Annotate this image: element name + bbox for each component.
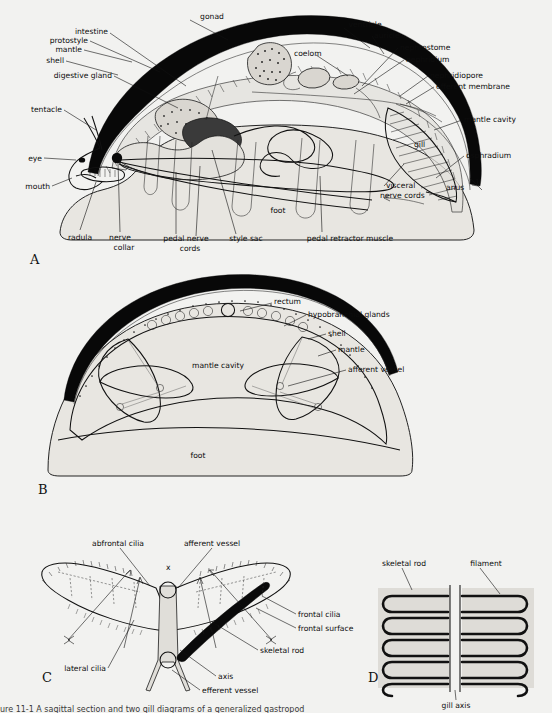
label-panel-b-mantle-cavity: mantle cavity (192, 361, 244, 370)
label-panel-a-pedal-nerve: pedal nerve (163, 234, 209, 243)
panel-d-right-block (462, 588, 534, 688)
label-panel-a-pedal-retractor: pedal retractor muscle (307, 234, 394, 243)
label-panel-a-eye: eye (28, 154, 42, 163)
label-panel-c-frontal-cilia: frontal cilia (298, 610, 340, 619)
label-panel-a-intestine: intestine (75, 27, 108, 36)
label-panel-b-foot: foot (191, 451, 206, 460)
label-panel-a-coelom: coelom (294, 49, 322, 58)
label-panel-a-nephridium: nephridium (406, 55, 450, 64)
label-panel-a-nephrostome: nephrostome (400, 43, 451, 52)
label-panel-a-gill: gill (414, 140, 425, 149)
label-panel-d-filament: filament (470, 559, 501, 568)
label-panel-a-foot: foot (271, 206, 286, 215)
anatomy-figure-svg: shell mantle protostyle intestine gonad … (0, 0, 552, 713)
label-panel-a-anus: anus (446, 183, 464, 192)
label-panel-a-visceral-1: visceral (386, 181, 415, 190)
panel-a-eye (79, 157, 85, 162)
panel-d-letter: D (368, 670, 378, 685)
panel-b-letter: B (38, 482, 48, 497)
label-panel-b-mantle: mantle (338, 345, 365, 354)
label-panel-d-skeletal-rod: skeletal rod (382, 559, 426, 568)
label-panel-a-mouth: mouth (25, 182, 50, 191)
label-panel-b-hypobranchial: hypobranchial glands (308, 310, 390, 319)
label-panel-a-visceral-2: nerve cords (380, 191, 425, 200)
label-panel-b-afferent: afferent vessel (348, 365, 404, 374)
label-panel-a-tentacle: tentacle (31, 105, 62, 114)
label-panel-c-efferent-vessel: efferent vessel (202, 686, 258, 695)
panel-c-marker-x: x (166, 563, 171, 572)
panel-c-letter: C (42, 670, 52, 685)
label-panel-a-efferent-membrane: efferent membrane (436, 82, 510, 91)
label-panel-a-pedal-cords: cords (180, 244, 201, 253)
label-panel-a-radula: radula (68, 233, 92, 242)
label-panel-a-mantle-cavity: mantle cavity (464, 115, 516, 124)
panel-a-letter: A (29, 252, 40, 267)
label-panel-c-axis: axis (218, 672, 233, 681)
label-panel-b-rectum: rectum (274, 297, 301, 306)
label-panel-a-collar: collar (114, 243, 136, 252)
label-panel-a-nephridiopore: nephridiopore (430, 71, 483, 80)
label-panel-a-protostyle: protostyle (50, 36, 89, 45)
label-panel-a-nerve: nerve (109, 233, 131, 242)
label-panel-c-skeletal-rod: skeletal rod (260, 646, 304, 655)
label-panel-c-abfrontal-cilia: abfrontal cilia (92, 539, 144, 548)
label-panel-a-auricle: auricle (374, 31, 400, 40)
label-panel-b-shell: shell (328, 329, 346, 338)
panel-d-left-block (378, 588, 450, 688)
label-panel-a-ventricle: ventricle (348, 20, 381, 29)
panel-a-nerve-collar (112, 153, 122, 163)
label-panel-a-shell: shell (46, 56, 64, 65)
label-panel-a-style-sac: style sac (229, 234, 262, 243)
label-panel-c-afferent-vessel: afferent vessel (184, 539, 240, 548)
label-panel-a-mantle: mantle (55, 45, 82, 54)
label-panel-a-digestive-gland: digestive gland (54, 71, 112, 80)
label-panel-a-osphradium: osphradium (466, 151, 511, 160)
label-panel-a-gonad: gonad (200, 12, 224, 21)
label-panel-c-frontal-surface: frontal surface (298, 624, 354, 633)
figure-caption: ure 11-1 A sagittal section and two gill… (0, 704, 552, 713)
figure-root: shell mantle protostyle intestine gonad … (0, 0, 552, 713)
label-panel-c-lateral-cilia: lateral cilia (64, 664, 106, 673)
